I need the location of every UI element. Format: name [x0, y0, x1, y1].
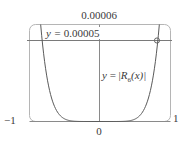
- curve-label-eq: = |: [107, 69, 121, 81]
- x-max-tick-label: 1: [173, 112, 179, 124]
- curve-label-arg: (x)|: [131, 69, 146, 81]
- x-min-tick-label: −1: [4, 114, 16, 126]
- threshold-label-value: 0.00005: [64, 27, 100, 39]
- y-max-tick-label: 0.00006: [81, 9, 117, 21]
- curve-label: y = |R6(x)|: [102, 69, 146, 86]
- threshold-label-y: y =: [46, 27, 64, 39]
- plot-area: [0, 0, 187, 145]
- curve-label-r: R: [121, 69, 128, 81]
- x-zero-tick-label: 0: [96, 125, 102, 137]
- threshold-line-label: y = 0.00005: [44, 27, 102, 39]
